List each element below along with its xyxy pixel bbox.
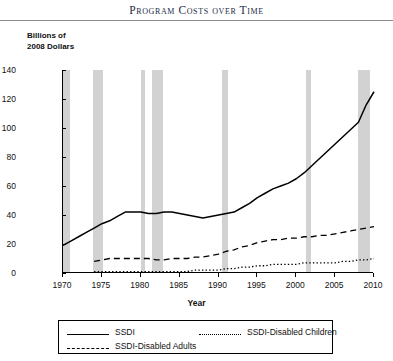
legend-line-swatch-icon [199,334,241,335]
x-tick-mark [101,273,102,277]
x-tick-mark [62,273,63,277]
x-tick-label: 1995 [236,280,276,290]
y-tick-label: 20 [0,239,16,249]
legend-line-swatch-icon [67,348,109,349]
y-tick-mark [62,128,66,129]
series-line [94,259,374,272]
y-tick-label: 60 [0,181,16,191]
y-tick-mark [62,70,66,71]
x-tick-label: 2000 [275,280,315,290]
x-tick-mark [140,273,141,277]
chart-legend: SSDISSDI-Disabled ChildrenSSDI-Disabled … [58,320,333,354]
y-tick-label: 120 [0,94,16,104]
legend-item: SSDI [67,325,135,338]
x-tick-mark [295,273,296,277]
x-tick-label: 1980 [120,280,160,290]
legend-item: SSDI-Disabled Adults [67,339,196,352]
legend-line-swatch-icon [67,334,109,335]
y-tick-label: 80 [0,152,16,162]
x-tick-mark [179,273,180,277]
y-tick-mark [62,157,66,158]
series-line [94,227,374,262]
y-tick-mark [62,244,66,245]
x-tick-mark [256,273,257,277]
legend-item-label: SSDI-Disabled Adults [115,341,196,351]
y-tick-mark [62,186,66,187]
legend-item: SSDI-Disabled Children [199,325,337,338]
series-line [63,92,374,246]
y-tick-label: 40 [0,210,16,220]
y-tick-label: 0 [0,268,16,278]
series-lines [63,70,374,273]
legend-item-label: SSDI-Disabled Children [247,327,337,337]
legend-item-label: SSDI [115,327,135,337]
y-tick-mark [62,99,66,100]
x-axis-label: Year [0,298,393,308]
x-tick-label: 1970 [42,280,82,290]
x-tick-label: 1985 [159,280,199,290]
x-tick-label: 1990 [198,280,238,290]
plot-area [62,70,373,273]
x-tick-label: 2010 [353,280,393,290]
x-tick-mark [218,273,219,277]
x-tick-mark [334,273,335,277]
y-tick-mark [62,215,66,216]
x-tick-mark [373,273,374,277]
x-tick-label: 2005 [314,280,354,290]
y-tick-label: 140 [0,65,16,75]
y-tick-label: 100 [0,123,16,133]
x-tick-label: 1975 [81,280,121,290]
